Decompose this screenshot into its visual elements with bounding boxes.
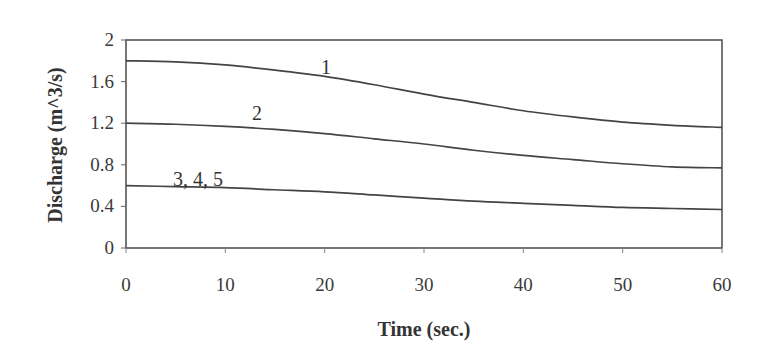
- y-tick-label: 1.2: [90, 112, 114, 133]
- y-tick-label: 0.4: [90, 195, 114, 216]
- x-tick-label: 0: [121, 274, 131, 295]
- series-line-2: [126, 123, 722, 168]
- y-tick-label: 1.6: [90, 71, 114, 92]
- series-line-1: [126, 61, 722, 128]
- x-tick-label: 30: [415, 274, 434, 295]
- y-tick-label: 0.8: [90, 154, 114, 175]
- curve-labels: 123, 4, 5: [173, 56, 331, 190]
- x-tick-label: 60: [713, 274, 732, 295]
- x-tick-label: 10: [216, 274, 235, 295]
- plot-axes: 00.40.81.21.620102030405060: [90, 29, 731, 295]
- x-tick-label: 50: [613, 274, 632, 295]
- x-tick-label: 20: [315, 274, 334, 295]
- curve-label: 3, 4, 5: [173, 168, 223, 190]
- y-tick-label: 2: [105, 29, 115, 50]
- x-tick-label: 40: [514, 274, 533, 295]
- discharge-chart: 00.40.81.21.620102030405060 123, 4, 5 Ti…: [0, 0, 764, 361]
- y-axis-label: Discharge (m^3/s): [44, 67, 67, 222]
- x-axis-label: Time (sec.): [378, 318, 471, 341]
- curve-label: 2: [252, 102, 262, 124]
- y-tick-label: 0: [105, 237, 115, 258]
- curve-label: 1: [321, 56, 331, 78]
